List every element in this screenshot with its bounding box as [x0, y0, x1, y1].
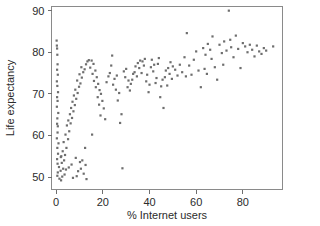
data-point: [143, 64, 145, 66]
data-point: [131, 79, 133, 81]
data-point: [56, 131, 58, 133]
data-point: [81, 77, 83, 79]
data-point: [272, 45, 274, 47]
data-point: [158, 57, 160, 59]
data-point: [165, 69, 167, 71]
data-point: [56, 158, 58, 160]
data-point: [118, 92, 120, 94]
data-point: [228, 10, 230, 12]
data-point: [155, 77, 157, 79]
data-point: [94, 69, 96, 71]
data-point: [116, 74, 118, 76]
data-point: [246, 51, 248, 53]
data-point: [179, 64, 181, 66]
data-point: [67, 119, 69, 121]
data-point: [61, 176, 63, 178]
data-point: [67, 138, 69, 140]
data-point: [63, 159, 65, 161]
data-point: [56, 63, 58, 65]
data-point: [57, 74, 59, 76]
data-point: [265, 49, 267, 51]
data-point: [121, 167, 123, 169]
data-point: [92, 63, 94, 65]
data-point: [66, 124, 68, 126]
data-point: [60, 170, 62, 172]
data-point: [109, 72, 111, 74]
data-point: [214, 66, 216, 68]
data-point: [117, 99, 119, 101]
data-point: [251, 49, 253, 51]
data-point: [181, 71, 183, 73]
data-point: [89, 67, 91, 69]
data-point: [101, 100, 103, 102]
data-point: [57, 112, 59, 114]
data-point: [168, 73, 170, 75]
data-point: [85, 178, 87, 180]
data-point: [172, 65, 174, 67]
data-point: [72, 110, 74, 112]
data-point: [200, 86, 202, 88]
data-point: [56, 40, 58, 42]
data-point: [113, 78, 115, 80]
data-point: [218, 44, 220, 46]
data-point: [129, 89, 131, 91]
data-point: [73, 94, 75, 96]
data-point: [57, 171, 59, 173]
data-point: [210, 58, 212, 60]
data-point: [83, 173, 85, 175]
data-point: [159, 96, 161, 98]
data-point: [57, 91, 59, 93]
data-point: [100, 93, 102, 95]
data-point: [237, 48, 239, 50]
data-point: [56, 47, 58, 49]
data-point: [157, 63, 159, 65]
data-point: [169, 61, 171, 63]
data-point: [74, 89, 76, 91]
data-point: [147, 91, 149, 93]
data-point: [145, 80, 147, 82]
data-point: [98, 89, 100, 91]
data-point: [207, 43, 209, 45]
data-point: [204, 54, 206, 56]
data-point: [176, 74, 178, 76]
data-point: [193, 59, 195, 61]
data-point: [60, 155, 62, 157]
data-point: [125, 68, 127, 70]
data-point: [57, 125, 59, 127]
data-point: [77, 170, 79, 172]
data-point: [223, 40, 225, 42]
y-axis-ticks: 5060708090: [32, 5, 51, 183]
data-point: [123, 70, 125, 72]
data-point: [69, 113, 71, 115]
data-point: [57, 142, 59, 144]
data-point: [78, 73, 80, 75]
data-point: [221, 52, 223, 54]
data-point: [56, 54, 58, 56]
data-point: [133, 71, 135, 73]
data-point: [138, 67, 140, 69]
data-point: [230, 46, 232, 48]
y-tick-label: 50: [32, 171, 44, 183]
data-point: [56, 106, 58, 108]
data-point: [74, 104, 76, 106]
data-point: [154, 82, 156, 84]
y-tick-label: 80: [32, 46, 44, 58]
data-point: [183, 56, 185, 58]
data-point: [185, 75, 187, 77]
data-point: [79, 161, 81, 163]
data-point: [93, 80, 95, 82]
data-point: [91, 73, 93, 75]
data-point: [186, 32, 188, 34]
data-point: [76, 175, 78, 177]
data-point: [65, 168, 67, 170]
data-point: [62, 168, 64, 170]
data-point: [56, 137, 58, 139]
data-point: [153, 64, 155, 66]
data-point: [188, 64, 190, 66]
data-point: [137, 62, 139, 64]
data-point: [222, 64, 224, 66]
data-point: [91, 134, 93, 136]
data-point: [84, 147, 86, 149]
data-point: [225, 49, 227, 51]
data-point: [197, 69, 199, 71]
